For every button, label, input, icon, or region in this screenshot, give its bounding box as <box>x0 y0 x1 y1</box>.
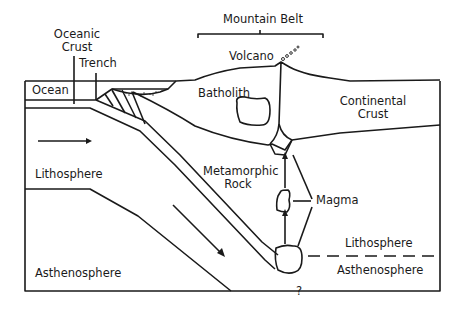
label-lithosphere-right: Lithosphere <box>345 237 413 250</box>
label-mountain-belt: Mountain Belt <box>223 13 303 26</box>
label-continental-crust-2: Crust <box>338 108 408 121</box>
ash-plume <box>282 46 300 61</box>
subduction-arrow <box>173 205 220 252</box>
magma-leader-low <box>298 207 312 246</box>
batholith <box>237 97 270 125</box>
magma-blob-lower <box>275 245 302 273</box>
plate-motion-arrowhead <box>86 138 92 144</box>
label-trench: Trench <box>79 57 117 70</box>
label-asthenosphere-left: Asthenosphere <box>35 267 121 280</box>
label-oceanic-crust-2: Crust <box>52 41 102 54</box>
continental-surface <box>176 62 440 81</box>
sediment-basin <box>112 89 168 94</box>
label-volcano: Volcano <box>229 50 274 63</box>
label-magma: Magma <box>316 194 359 207</box>
label-lithosphere-left: Lithosphere <box>35 168 103 181</box>
mountain-belt-bracket <box>198 34 323 38</box>
label-unknown: ? <box>296 285 302 298</box>
label-ocean: Ocean <box>32 84 69 97</box>
magma-leader-top <box>293 155 312 199</box>
magma-blob-middle <box>277 190 290 212</box>
label-metamorphic-rock-2: Rock <box>203 178 273 191</box>
label-asthenosphere-right: Asthenosphere <box>337 264 423 277</box>
volcano-conduit <box>270 62 281 144</box>
label-batholith: Batholith <box>198 87 250 100</box>
